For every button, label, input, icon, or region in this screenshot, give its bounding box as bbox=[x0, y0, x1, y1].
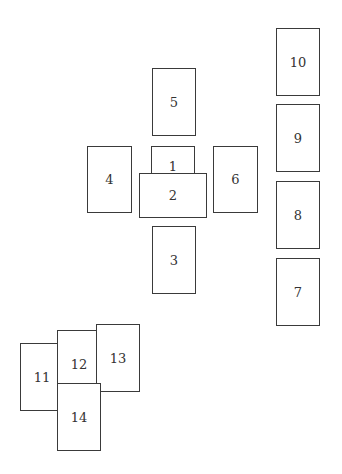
card-number-label: 2 bbox=[169, 188, 177, 203]
card-position-14: 14 bbox=[57, 383, 101, 451]
card-number-label: 5 bbox=[170, 95, 178, 110]
card-number-label: 12 bbox=[71, 357, 88, 372]
card-position-10: 10 bbox=[276, 28, 320, 96]
card-position-13: 13 bbox=[96, 324, 140, 392]
card-position-4: 4 bbox=[87, 146, 132, 213]
card-position-8: 8 bbox=[276, 181, 320, 249]
card-number-label: 4 bbox=[105, 172, 113, 187]
card-number-label: 1 bbox=[169, 159, 177, 174]
card-number-label: 11 bbox=[34, 370, 51, 385]
card-number-label: 8 bbox=[294, 208, 302, 223]
card-number-label: 9 bbox=[294, 131, 302, 146]
card-number-label: 3 bbox=[170, 253, 178, 268]
card-number-label: 6 bbox=[231, 172, 239, 187]
card-number-label: 13 bbox=[110, 351, 127, 366]
card-position-6: 6 bbox=[213, 146, 258, 213]
card-number-label: 14 bbox=[71, 410, 88, 425]
card-number-label: 10 bbox=[290, 55, 307, 70]
card-position-7: 7 bbox=[276, 258, 320, 326]
card-position-3: 3 bbox=[152, 226, 196, 294]
card-position-2: 2 bbox=[139, 173, 207, 218]
card-position-5: 5 bbox=[152, 68, 196, 136]
card-number-label: 7 bbox=[294, 285, 302, 300]
card-position-9: 9 bbox=[276, 104, 320, 172]
